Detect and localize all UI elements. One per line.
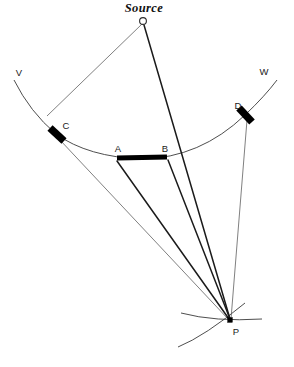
wavefront-diagram: Source V W A B C D P [0, 0, 294, 367]
label-d: D [235, 100, 242, 111]
label-v: V [16, 67, 23, 78]
main-wavefront-arc [14, 80, 277, 159]
source-label: Source [125, 1, 164, 15]
ray-d-to-p [231, 120, 247, 319]
label-a: A [115, 143, 122, 154]
label-b: B [162, 143, 168, 154]
secondary-wavelet-arc-diagonal [178, 303, 245, 347]
point-p-marker [228, 318, 233, 323]
label-p: P [233, 326, 239, 337]
source-point [140, 18, 147, 25]
diagram-canvas: Source V W A B C D P [0, 0, 294, 367]
ray-a-to-p [117, 161, 229, 319]
label-w: W [260, 66, 269, 77]
secondary-wavelet-arc-flat [181, 313, 262, 320]
aperture-segment-ab [117, 157, 167, 158]
ray-b-to-p [168, 160, 230, 319]
label-c: C [63, 120, 70, 131]
ray-source-to-c [47, 24, 142, 116]
